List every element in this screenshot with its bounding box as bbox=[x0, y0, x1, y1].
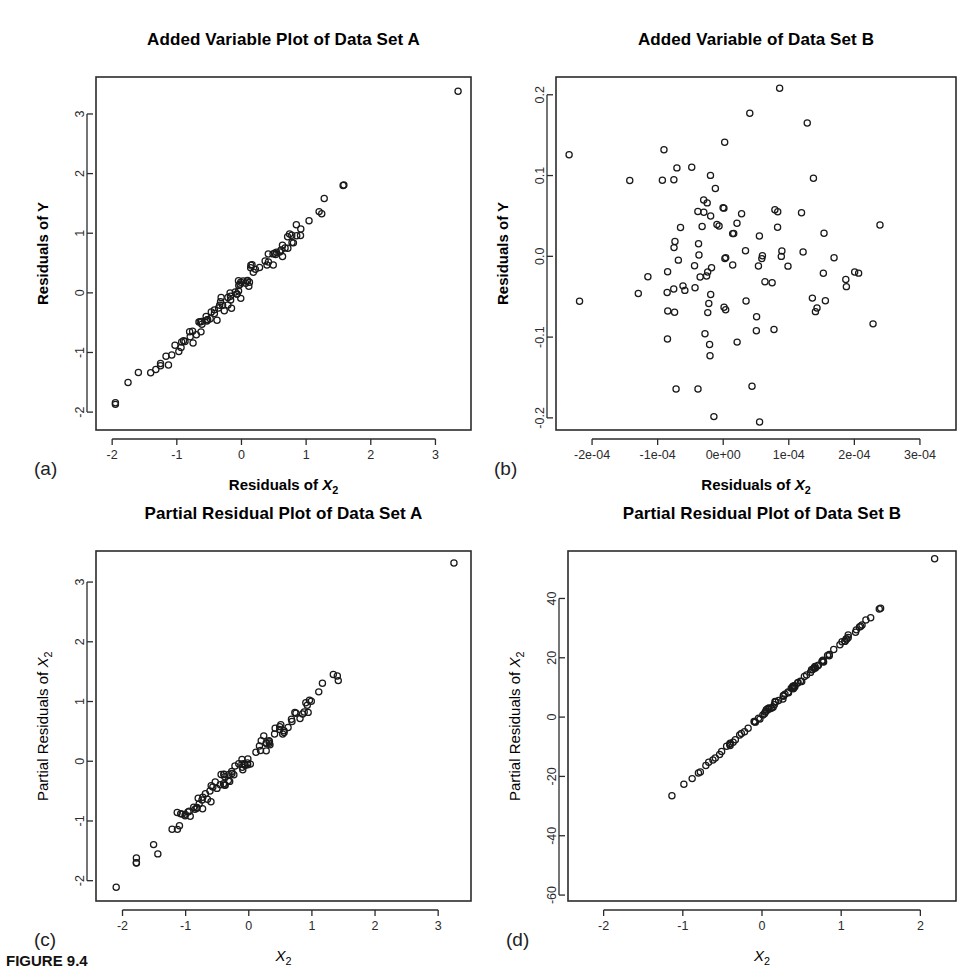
data-point bbox=[762, 279, 768, 285]
data-point bbox=[672, 238, 678, 244]
data-point bbox=[319, 680, 325, 686]
data-point bbox=[645, 274, 651, 280]
panel-label-d: (d) bbox=[506, 929, 529, 951]
data-point bbox=[665, 308, 671, 314]
y-tick-label: -0.1 bbox=[533, 326, 547, 348]
y-tick-label: 0.2 bbox=[533, 86, 547, 103]
data-point bbox=[455, 88, 461, 94]
y-tick-label: -2 bbox=[73, 407, 87, 418]
data-point bbox=[749, 383, 755, 389]
x-axis-title-a: Residuals of X2 bbox=[96, 476, 471, 496]
data-point bbox=[730, 262, 736, 268]
data-point bbox=[707, 172, 713, 178]
data-point bbox=[664, 289, 670, 295]
x-tick-label: 2 bbox=[917, 919, 924, 933]
panel-title-d: Partial Residual Plot of Data Set B bbox=[568, 504, 956, 524]
data-point bbox=[738, 211, 744, 217]
data-point bbox=[708, 291, 714, 297]
data-point bbox=[689, 776, 695, 782]
data-point bbox=[298, 226, 304, 232]
y-axis-title-text: Partial Residuals of X2 bbox=[34, 651, 51, 800]
data-point bbox=[753, 328, 759, 334]
y-tick-label: 40 bbox=[545, 591, 559, 605]
y-tick-label: -20 bbox=[545, 767, 559, 785]
data-point bbox=[664, 336, 670, 342]
data-point bbox=[804, 120, 810, 126]
panel-label-c: (c) bbox=[34, 929, 56, 951]
data-point bbox=[753, 314, 759, 320]
y-tick-label: -60 bbox=[545, 886, 559, 904]
y-tick-label: -40 bbox=[545, 827, 559, 845]
data-point bbox=[671, 286, 677, 292]
x-tick-label: 1 bbox=[303, 448, 310, 462]
y-axis-title-text: Residuals of Y bbox=[494, 202, 511, 305]
data-point bbox=[877, 222, 883, 228]
y-tick-label: 0 bbox=[73, 758, 87, 765]
data-point bbox=[306, 218, 312, 224]
data-point bbox=[932, 556, 938, 562]
y-tick-label: -2 bbox=[73, 875, 87, 886]
data-point bbox=[665, 269, 671, 275]
scatter-points-c bbox=[113, 560, 457, 891]
data-point bbox=[661, 147, 667, 153]
data-point bbox=[809, 295, 815, 301]
data-point bbox=[771, 326, 777, 332]
x-tick-label: 2 bbox=[367, 448, 374, 462]
x-tick-label: 3 bbox=[435, 919, 442, 933]
x-tick-label: -2 bbox=[107, 448, 118, 462]
y-axis-title-d: Partial Residuals of X2 bbox=[506, 651, 526, 800]
scatter-points-b bbox=[566, 85, 883, 425]
x-axis-title-c: X2 bbox=[96, 947, 471, 967]
panel-a: -2-10123-2-10123 bbox=[44, 67, 483, 474]
data-point bbox=[221, 308, 227, 314]
data-point bbox=[165, 362, 171, 368]
data-point bbox=[692, 285, 698, 291]
data-point bbox=[635, 290, 641, 296]
x-tick-label: 1e-04 bbox=[773, 448, 805, 462]
panel-b: -2e-04-1e-040e+001e-042e-043e-04-0.2-0.1… bbox=[504, 67, 968, 474]
plot-area-b: -2e-04-1e-040e+001e-042e-043e-04-0.2-0.1… bbox=[504, 67, 968, 474]
data-point bbox=[769, 280, 775, 286]
data-point bbox=[757, 419, 763, 425]
data-point bbox=[671, 245, 677, 251]
data-point bbox=[707, 353, 713, 359]
data-point bbox=[711, 414, 717, 420]
x-tick-label: 0 bbox=[245, 919, 252, 933]
y-tick-label: 1 bbox=[73, 230, 87, 237]
data-point bbox=[831, 255, 837, 261]
data-point bbox=[218, 294, 224, 300]
data-point bbox=[870, 321, 876, 327]
x-tick-label: -2 bbox=[598, 919, 609, 933]
x-tick-label: -1e-04 bbox=[640, 448, 676, 462]
y-tick-label: 0 bbox=[545, 714, 559, 721]
scatter-points-a bbox=[112, 88, 461, 407]
panel-title-b: Added Variable of Data Set B bbox=[556, 30, 956, 50]
x-tick-label: 0 bbox=[238, 448, 245, 462]
y-tick-label: 2 bbox=[73, 638, 87, 645]
y-tick-label: 1 bbox=[73, 698, 87, 705]
data-point bbox=[734, 220, 740, 226]
y-tick-label: 2 bbox=[73, 170, 87, 177]
data-point bbox=[674, 165, 680, 171]
x-axis-title-b: Residuals of X2 bbox=[556, 476, 956, 496]
panel-title-c: Partial Residual Plot of Data Set A bbox=[96, 504, 471, 524]
x-tick-label: 0e+00 bbox=[706, 448, 741, 462]
y-axis-b: -0.2-0.10.00.10.2 bbox=[533, 86, 553, 429]
x-tick-label: 1 bbox=[838, 919, 845, 933]
x-tick-label: 0 bbox=[759, 919, 766, 933]
y-tick-label: -0.2 bbox=[533, 407, 547, 429]
data-point bbox=[755, 263, 761, 269]
x-axis-d: -2-1012 bbox=[598, 910, 924, 933]
y-tick-label: 3 bbox=[73, 579, 87, 586]
y-axis-title-text: Partial Residuals of X2 bbox=[506, 651, 523, 800]
scatter-points-d bbox=[669, 556, 938, 799]
data-point bbox=[777, 85, 783, 91]
data-point bbox=[148, 370, 154, 376]
panel-d: -2-1012-60-40-2002040 bbox=[516, 541, 968, 945]
x-axis-title-d: X2 bbox=[568, 947, 956, 967]
data-point bbox=[671, 309, 677, 315]
y-axis-title-text: Residuals of Y bbox=[34, 202, 51, 305]
data-point bbox=[695, 241, 701, 247]
data-point bbox=[831, 646, 837, 652]
y-tick-label: -1 bbox=[73, 815, 87, 826]
